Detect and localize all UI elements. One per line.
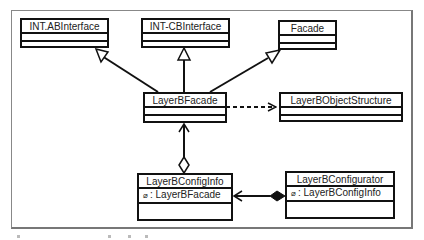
cutoff-text-fragment bbox=[17, 235, 20, 238]
cutoff-text-fragment bbox=[108, 235, 111, 238]
class-layerb-config-info[interactable]: LayerBConfigInfo ⌀: LayerBFacade bbox=[137, 173, 233, 221]
class-layerb-object-structure[interactable]: LayerBObjectStructure bbox=[279, 92, 403, 122]
operations-section bbox=[139, 204, 231, 213]
attributes-section bbox=[22, 34, 107, 42]
aggregation-config-info-facade bbox=[179, 124, 189, 173]
package-visibility-icon: ⌀ bbox=[143, 191, 148, 200]
generalization-facade bbox=[210, 50, 280, 92]
attributes-section bbox=[145, 108, 225, 116]
class-int-ab-interface[interactable]: INT.ABInterface bbox=[20, 18, 109, 48]
class-name: LayerBConfigurator bbox=[287, 173, 393, 187]
class-facade[interactable]: Facade bbox=[278, 20, 337, 50]
operations-section bbox=[145, 116, 225, 122]
attribute-type: : LayerBFacade bbox=[150, 189, 221, 200]
operations-section bbox=[22, 42, 107, 48]
attribute-row: ⌀: LayerBFacade bbox=[139, 189, 231, 204]
composition-configurator-config-info bbox=[234, 191, 285, 201]
attributes-section bbox=[143, 34, 228, 42]
attribute-row: ⌀: LayerBConfigInfo bbox=[287, 187, 393, 202]
operations-section bbox=[287, 202, 393, 211]
operations-section bbox=[281, 116, 401, 122]
class-layerb-facade[interactable]: LayerBFacade bbox=[143, 92, 227, 123]
cutoff-text-fragment bbox=[145, 235, 148, 238]
operations-section bbox=[280, 44, 335, 50]
attribute-type: : LayerBConfigInfo bbox=[298, 187, 381, 198]
class-name: LayerBConfigInfo bbox=[139, 175, 231, 189]
generalization-ab bbox=[96, 49, 158, 92]
operations-section bbox=[143, 42, 228, 48]
class-name: INT.ABInterface bbox=[22, 20, 107, 34]
cutoff-text-fragment bbox=[128, 235, 131, 238]
package-visibility-icon: ⌀ bbox=[291, 189, 296, 198]
class-name: LayerBFacade bbox=[145, 94, 225, 108]
class-name: INT-CBInterface bbox=[143, 20, 228, 34]
attributes-section bbox=[281, 108, 401, 116]
generalization-cb bbox=[178, 48, 190, 92]
attributes-section bbox=[280, 36, 335, 44]
class-layerb-configurator[interactable]: LayerBConfigurator ⌀: LayerBConfigInfo bbox=[285, 171, 395, 219]
class-name: LayerBObjectStructure bbox=[281, 94, 401, 108]
class-name: Facade bbox=[280, 22, 335, 36]
class-int-cb-interface[interactable]: INT-CBInterface bbox=[141, 18, 230, 48]
